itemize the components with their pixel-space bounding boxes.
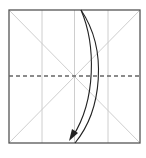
diagram-canvas: [0, 0, 146, 158]
arrow-inner-curve: [73, 10, 91, 136]
origami-diagram: [0, 0, 146, 158]
